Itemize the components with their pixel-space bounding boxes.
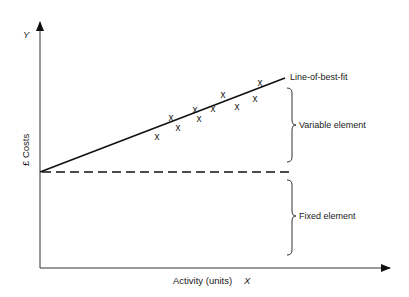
variable-brace <box>287 88 296 162</box>
data-points: x x x x x x x x x x <box>155 77 263 142</box>
data-point: x <box>155 131 160 142</box>
x-axis-label: Activity (units) <box>173 275 232 286</box>
fixed-element-label: Fixed element <box>299 211 356 221</box>
data-point: x <box>197 113 202 124</box>
variable-element-label: Variable element <box>299 120 366 130</box>
data-point: x <box>211 103 216 114</box>
data-point: x <box>176 122 181 133</box>
data-point: x <box>258 77 263 88</box>
line-of-best-fit <box>40 78 285 172</box>
x-axis-letter: X <box>243 275 251 286</box>
data-point: x <box>169 112 174 123</box>
y-axis-letter: Y <box>23 29 30 40</box>
data-point: x <box>235 101 240 112</box>
y-axis-label: £ Costs <box>20 134 31 166</box>
fixed-brace <box>287 180 296 255</box>
data-point: x <box>253 93 258 104</box>
line-of-best-fit-label: Line-of-best-fit <box>290 72 348 82</box>
data-point: x <box>221 89 226 100</box>
cost-diagram: x x x x x x x x x x Line-of-best-fit Var… <box>0 0 409 297</box>
